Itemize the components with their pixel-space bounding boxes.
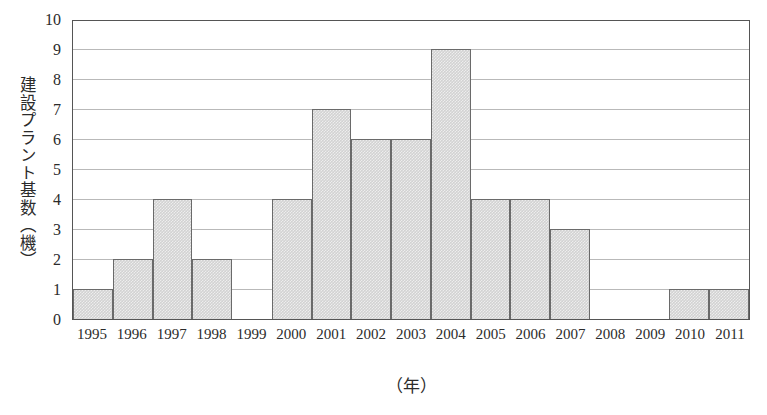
- bar-cell: [391, 21, 431, 319]
- x-axis-title: （年）: [72, 372, 750, 397]
- y-tick-3: 3: [53, 221, 61, 239]
- bar-2010: [669, 289, 709, 319]
- bar-cell: [351, 21, 391, 319]
- y-tick-6: 6: [53, 131, 61, 149]
- bar-cell: [232, 21, 272, 319]
- plot-area: [72, 20, 750, 320]
- bar-2005: [471, 199, 511, 319]
- bar-cell: [73, 21, 113, 319]
- bar-cell: [471, 21, 511, 319]
- bar-1997: [153, 199, 193, 319]
- x-axis-tick-labels: 1995199619971998199920002001200220032004…: [72, 326, 750, 350]
- x-tick-2006: 2006: [511, 326, 551, 350]
- bar-cell: [630, 21, 670, 319]
- bar-2002: [351, 139, 391, 319]
- y-tick-5: 5: [53, 161, 61, 179]
- x-tick-1999: 1999: [232, 326, 272, 350]
- x-tick-2010: 2010: [670, 326, 710, 350]
- x-tick-2003: 2003: [391, 326, 431, 350]
- bar-cell: [192, 21, 232, 319]
- bar-cell: [113, 21, 153, 319]
- y-axis-title: 建設プラント基数（機）: [4, 22, 34, 322]
- bar-2000: [272, 199, 312, 319]
- x-tick-2005: 2005: [471, 326, 511, 350]
- y-tick-1: 1: [53, 281, 61, 299]
- x-tick-2000: 2000: [271, 326, 311, 350]
- bar-cell: [431, 21, 471, 319]
- y-tick-2: 2: [53, 251, 61, 269]
- bar-2006: [510, 199, 550, 319]
- y-tick-10: 10: [45, 11, 61, 29]
- bar-2011: [709, 289, 749, 319]
- y-tick-9: 9: [53, 41, 61, 59]
- bar-1998: [192, 259, 232, 319]
- bar-2003: [391, 139, 431, 319]
- bar-1995: [73, 289, 113, 319]
- bar-cell: [550, 21, 590, 319]
- bar-cell: [510, 21, 550, 319]
- bar-2004: [431, 49, 471, 319]
- x-tick-1997: 1997: [152, 326, 192, 350]
- bar-chart-figure: 建設プラント基数（機） 012345678910 199519961997199…: [0, 0, 767, 415]
- bar-1996: [113, 259, 153, 319]
- y-tick-4: 4: [53, 191, 61, 209]
- x-tick-2002: 2002: [351, 326, 391, 350]
- y-tick-8: 8: [53, 71, 61, 89]
- x-tick-2007: 2007: [551, 326, 591, 350]
- bar-cell: [590, 21, 630, 319]
- x-tick-2001: 2001: [311, 326, 351, 350]
- x-tick-1995: 1995: [72, 326, 112, 350]
- bar-cell: [709, 21, 749, 319]
- x-tick-1998: 1998: [192, 326, 232, 350]
- x-tick-2004: 2004: [431, 326, 471, 350]
- bar-cell: [153, 21, 193, 319]
- x-tick-2009: 2009: [630, 326, 670, 350]
- bar-series: [73, 21, 749, 319]
- bar-cell: [272, 21, 312, 319]
- x-tick-1996: 1996: [112, 326, 152, 350]
- x-tick-2008: 2008: [590, 326, 630, 350]
- y-tick-0: 0: [53, 311, 61, 329]
- bar-cell: [312, 21, 352, 319]
- bar-2007: [550, 229, 590, 319]
- y-tick-7: 7: [53, 101, 61, 119]
- y-axis-tick-labels: 012345678910: [34, 20, 66, 320]
- bar-cell: [669, 21, 709, 319]
- x-tick-2011: 2011: [710, 326, 750, 350]
- bar-2001: [312, 109, 352, 319]
